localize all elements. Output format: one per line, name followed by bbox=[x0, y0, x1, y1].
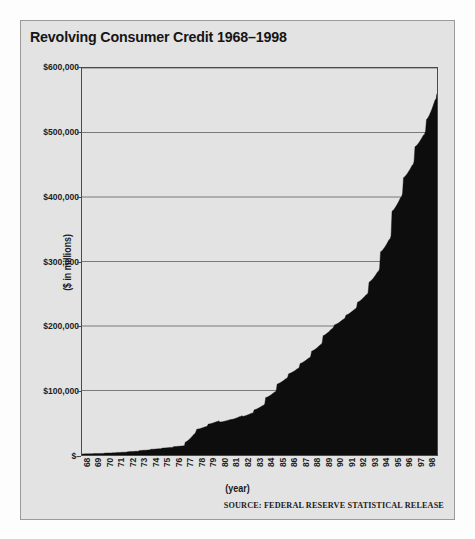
x-tick-label: 79 bbox=[208, 458, 218, 480]
page-title: Revolving Consumer Credit 1968–1998 bbox=[30, 28, 287, 46]
x-tick-label: 98 bbox=[427, 458, 437, 480]
y-tick-label: $600,000 bbox=[23, 61, 79, 72]
x-tick-label: 76 bbox=[174, 458, 184, 480]
y-axis-ticks: $-$100,000$200,000$300,000$400,000$500,0… bbox=[13, 67, 79, 456]
x-tick-label: 82 bbox=[243, 458, 253, 480]
x-tick-label: 73 bbox=[139, 458, 149, 480]
x-tick-label: 92 bbox=[358, 458, 368, 480]
x-tick-label: 88 bbox=[312, 458, 322, 480]
x-tick-label: 78 bbox=[197, 458, 207, 480]
x-tick-label: 86 bbox=[289, 458, 299, 480]
x-tick-label: 72 bbox=[128, 458, 138, 480]
y-tick-label: $300,000 bbox=[23, 256, 79, 267]
area-series bbox=[82, 68, 437, 455]
chart-page: Revolving Consumer Credit 1968–1998 ($ i… bbox=[0, 0, 475, 539]
source-note: SOURCE: FEDERAL RESERVE STATISTICAL RELE… bbox=[224, 501, 444, 510]
x-tick-label: 97 bbox=[416, 458, 426, 480]
y-tick-label: $100,000 bbox=[23, 385, 79, 396]
x-tick-label: 89 bbox=[324, 458, 334, 480]
x-tick-label: 84 bbox=[266, 458, 276, 480]
x-tick-label: 69 bbox=[93, 458, 103, 480]
x-tick-label: 70 bbox=[105, 458, 115, 480]
credit-area-path bbox=[82, 94, 437, 455]
x-tick-label: 96 bbox=[404, 458, 414, 480]
x-tick-label: 87 bbox=[301, 458, 311, 480]
x-tick-label: 71 bbox=[116, 458, 126, 480]
x-tick-label: 80 bbox=[220, 458, 230, 480]
y-tick-mark bbox=[77, 456, 81, 457]
x-tick-label: 90 bbox=[335, 458, 345, 480]
chart-panel: Revolving Consumer Credit 1968–1998 ($ i… bbox=[20, 20, 455, 520]
x-tick-label: 85 bbox=[278, 458, 288, 480]
x-tick-label: 83 bbox=[255, 458, 265, 480]
plot-area bbox=[81, 67, 438, 456]
x-tick-label: 94 bbox=[381, 458, 391, 480]
x-tick-label: 81 bbox=[231, 458, 241, 480]
x-tick-label: 75 bbox=[162, 458, 172, 480]
x-axis-title: (year) bbox=[43, 483, 433, 494]
y-tick-label: $500,000 bbox=[23, 126, 79, 137]
y-tick-label: $- bbox=[23, 450, 79, 461]
x-tick-label: 91 bbox=[347, 458, 357, 480]
x-tick-label: 93 bbox=[370, 458, 380, 480]
y-tick-label: $200,000 bbox=[23, 320, 79, 331]
x-tick-label: 95 bbox=[393, 458, 403, 480]
x-tick-label: 77 bbox=[185, 458, 195, 480]
y-tick-label: $400,000 bbox=[23, 191, 79, 202]
x-axis-ticks: 6869707172737475767778798081828384858687… bbox=[81, 458, 438, 482]
x-tick-label: 68 bbox=[82, 458, 92, 480]
x-tick-label: 74 bbox=[151, 458, 161, 480]
